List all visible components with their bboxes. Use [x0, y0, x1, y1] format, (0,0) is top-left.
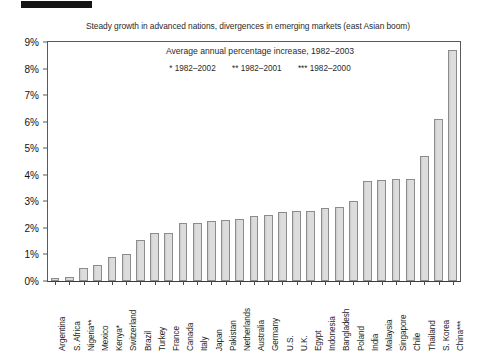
y-axis-tick-label: 5% — [25, 143, 39, 154]
x-axis-tick-label: Poland — [357, 326, 366, 351]
x-axis-tick-label: U.K. — [300, 335, 309, 351]
x-axis-tick-label: Chile — [413, 333, 422, 351]
x-axis-tick-label: Mexico — [101, 326, 110, 351]
x-axis-tick-mark — [98, 281, 99, 285]
x-axis-tick-mark — [424, 281, 425, 285]
x-axis-tick-mark — [226, 281, 227, 285]
x-axis-tick-label: Bangladesh — [342, 309, 351, 351]
x-axis-tick-mark — [382, 281, 383, 285]
x-axis-tick-label: Malaysia — [385, 319, 394, 351]
bar — [406, 179, 415, 281]
x-axis-tick-label: Netherlands — [243, 308, 252, 351]
x-axis-tick-mark — [410, 281, 411, 285]
x-axis-tick-mark — [396, 281, 397, 285]
x-axis-tick-mark — [84, 281, 85, 285]
y-axis-tick-label: 4% — [25, 169, 39, 180]
bar — [292, 211, 301, 281]
bar — [79, 268, 88, 281]
y-axis-tick-label: 8% — [25, 63, 39, 74]
y-axis-tick-label: 9% — [25, 37, 39, 48]
bar — [250, 216, 259, 281]
x-axis-tick-label: France — [172, 326, 181, 351]
x-axis-tick-mark — [453, 281, 454, 285]
x-axis-tick-label: Argentina — [58, 317, 67, 351]
y-axis-tick-label: 0% — [25, 276, 39, 287]
bar — [136, 240, 145, 281]
x-axis-tick-mark — [339, 281, 340, 285]
x-axis-tick-mark — [183, 281, 184, 285]
y-axis-tick-label: 6% — [25, 116, 39, 127]
bar — [150, 233, 159, 281]
bar — [363, 181, 372, 281]
x-axis-tick-label: Singapore — [399, 315, 408, 351]
x-axis-ticks — [48, 281, 460, 286]
bar — [278, 212, 287, 281]
x-axis-tick-label: Germany — [271, 318, 280, 351]
bar — [122, 254, 131, 281]
y-axis-tick-label: 3% — [25, 196, 39, 207]
x-axis-tick-mark — [268, 281, 269, 285]
bar — [349, 201, 358, 281]
x-axis-tick-label: India — [371, 334, 380, 351]
x-axis-tick-label: Kenya* — [115, 325, 124, 351]
x-axis-tick-mark — [297, 281, 298, 285]
x-axis-tick-mark — [211, 281, 212, 285]
y-axis-tick-label: 1% — [25, 249, 39, 260]
x-axis-tick-mark — [169, 281, 170, 285]
x-axis-tick-label: Indonesia — [328, 316, 337, 351]
bar — [108, 257, 117, 281]
x-axis-tick-label: Italy — [200, 336, 209, 351]
x-axis-tick-label: S. Africa — [73, 321, 82, 351]
bar — [420, 156, 429, 281]
bar — [335, 207, 344, 281]
bar — [221, 220, 230, 281]
y-axis-tick-label: 7% — [25, 90, 39, 101]
x-axis-tick-mark — [439, 281, 440, 285]
x-axis-tick-mark — [311, 281, 312, 285]
x-axis-tick-label: Australia — [257, 320, 266, 351]
bar — [434, 119, 443, 281]
x-axis-tick-mark — [55, 281, 56, 285]
x-axis-tick-label: S. Korea — [442, 320, 451, 351]
x-axis-tick-mark — [69, 281, 70, 285]
x-axis-tick-mark — [254, 281, 255, 285]
x-axis-tick-label: Japan — [215, 329, 224, 351]
y-axis-tick-label: 2% — [25, 222, 39, 233]
x-axis-tick-mark — [353, 281, 354, 285]
black-marker-bar — [21, 1, 92, 8]
bar — [306, 211, 315, 281]
bar — [93, 265, 102, 281]
x-axis-tick-label: Thailand — [428, 320, 437, 351]
x-axis-tick-mark — [197, 281, 198, 285]
bar — [264, 215, 273, 281]
bar — [164, 233, 173, 281]
bar — [193, 223, 202, 281]
x-axis-tick-mark — [140, 281, 141, 285]
y-axis: 0%1%2%3%4%5%6%7%8%9% — [0, 35, 45, 288]
bars-layer — [48, 42, 460, 281]
bar — [448, 50, 457, 281]
x-axis-tick-mark — [240, 281, 241, 285]
x-axis-tick-label: Pakistan — [229, 320, 238, 351]
x-axis-tick-label: U.S. — [286, 335, 295, 351]
x-axis-labels: ArgentinaS. AfricaNigeria**MexicoKenya*S… — [48, 287, 460, 355]
x-axis-tick-mark — [282, 281, 283, 285]
x-axis-tick-label: Switzerland — [129, 310, 138, 351]
x-axis-tick-mark — [155, 281, 156, 285]
bar — [235, 219, 244, 281]
bar — [207, 221, 216, 281]
bar — [321, 208, 330, 281]
chart-title: Steady growth in advanced nations, diver… — [0, 21, 496, 31]
x-axis-tick-mark — [112, 281, 113, 285]
x-axis-tick-label: Nigeria** — [87, 320, 96, 351]
x-axis-tick-label: Turkey — [158, 327, 167, 351]
x-axis-tick-label: Canada — [186, 323, 195, 351]
bar — [179, 223, 188, 281]
x-axis-tick-mark — [368, 281, 369, 285]
x-axis-tick-label: China*** — [456, 321, 465, 351]
bar — [377, 180, 386, 281]
x-axis-tick-label: Brazil — [144, 331, 153, 351]
x-axis-tick-mark — [325, 281, 326, 285]
bar — [392, 179, 401, 281]
x-axis-tick-label: Egypt — [314, 331, 323, 351]
